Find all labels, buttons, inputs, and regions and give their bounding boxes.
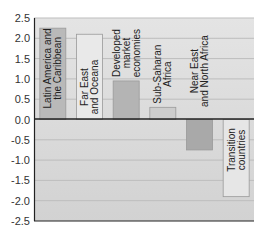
bar-chart: Latin America andthe CaribbeanFar Eastan… <box>0 0 271 238</box>
svg-text:the Caribbean: the Caribbean <box>52 37 63 100</box>
y-tick-label: -0.5 <box>11 134 30 146</box>
y-tick-label: 2.5 <box>15 12 30 24</box>
y-tick-label: 1.0 <box>15 73 30 85</box>
y-tick-label: -1.0 <box>11 154 30 166</box>
y-tick-label: -2.0 <box>11 195 30 207</box>
y-tick-label: 0.5 <box>15 93 30 105</box>
y-tick-label: -2.5 <box>11 215 30 227</box>
y-tick-label: 0.0 <box>15 114 30 126</box>
y-tick-label: 2.0 <box>15 32 30 44</box>
svg-text:Africa: Africa <box>162 61 173 87</box>
svg-text:countries: countries <box>236 130 247 171</box>
bar-label: Latin America andthe Caribbean <box>42 28 63 108</box>
y-axis-ticks: 2.52.01.51.00.50.0-0.5-1.0-1.5-2.0-2.5 <box>11 12 30 227</box>
y-tick-label: -1.5 <box>11 174 30 186</box>
bar <box>113 81 139 120</box>
bar <box>150 107 176 119</box>
bar-label: Transitioncountries <box>226 128 247 172</box>
svg-text:and Oceana: and Oceana <box>89 59 100 114</box>
bar <box>187 120 213 150</box>
svg-text:economies: economies <box>131 29 142 77</box>
svg-text:and North Africa: and North Africa <box>199 35 210 107</box>
y-tick-label: 1.5 <box>15 53 30 65</box>
